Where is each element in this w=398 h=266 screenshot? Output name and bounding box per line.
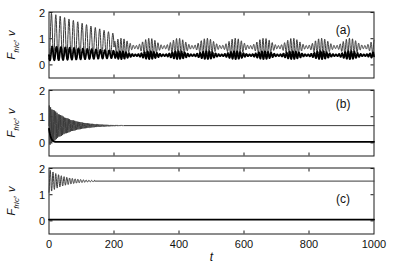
y-tick-label: 2: [39, 163, 45, 175]
subplot-a: Ffric, v 012(a): [0, 10, 398, 80]
x-tick-label: 400: [161, 238, 197, 250]
y-tick-label: 0: [39, 215, 45, 227]
panel-label: (a): [336, 23, 351, 37]
subplot-a-canvas: 012(a): [0, 10, 398, 80]
x-tick-label: 200: [96, 238, 132, 250]
series-v: [49, 129, 374, 142]
panel-label: (c): [336, 192, 350, 206]
x-tick-label: 0: [31, 238, 67, 250]
friction-velocity-figure: Ffric, v 012(a) Ffric, v 012(b) Ffric, v…: [0, 0, 398, 266]
x-tick-label: 1000: [356, 238, 392, 250]
subplot-b: Ffric, v 012(b): [0, 88, 398, 158]
y-tick-label: 2: [39, 85, 45, 97]
y-tick-label: 0: [39, 137, 45, 149]
x-tick-label: 800: [291, 238, 327, 250]
subplot-c-canvas: 012(c): [0, 166, 398, 236]
panel-label: (b): [336, 97, 351, 111]
subplot-b-canvas: 012(b): [0, 88, 398, 158]
subplot-c: Ffric, v 012(c): [0, 166, 398, 236]
y-tick-label: 1: [39, 111, 45, 123]
y-tick-label: 1: [39, 33, 45, 45]
x-axis-label: t: [201, 250, 222, 264]
x-tick-labels: 02004006008001000: [0, 238, 398, 251]
x-tick-label: 600: [226, 238, 262, 250]
plot-frame: [49, 168, 374, 234]
series-F_fric: [49, 106, 374, 145]
y-tick-label: 1: [39, 189, 45, 201]
plot-frame: [49, 90, 374, 156]
y-tick-label: 0: [39, 59, 45, 71]
y-tick-label: 2: [39, 7, 45, 19]
series-F_fric: [49, 170, 374, 192]
